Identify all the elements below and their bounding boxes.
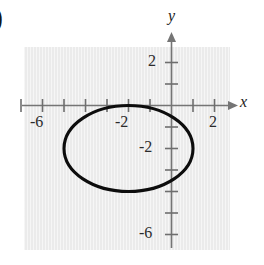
figure-label-paren: )	[0, 2, 3, 32]
coordinate-plot-svg	[0, 0, 264, 265]
figure-container: y x -6 -2 2 2 -2 -6 )	[0, 0, 264, 265]
x-tick-label-neg2: -2	[115, 114, 128, 130]
x-axis-arrowhead	[228, 101, 238, 110]
y-tick-label-neg2: -2	[139, 139, 152, 155]
y-axis-arrowhead	[167, 32, 176, 42]
x-tick-label-pos2: 2	[209, 114, 217, 130]
x-tick-label-neg6: -6	[30, 114, 43, 130]
y-axis-label: y	[168, 8, 175, 24]
y-tick-label-neg6: -6	[139, 225, 152, 241]
x-axis-label: x	[240, 94, 247, 110]
y-tick-label-pos2: 2	[148, 53, 156, 69]
